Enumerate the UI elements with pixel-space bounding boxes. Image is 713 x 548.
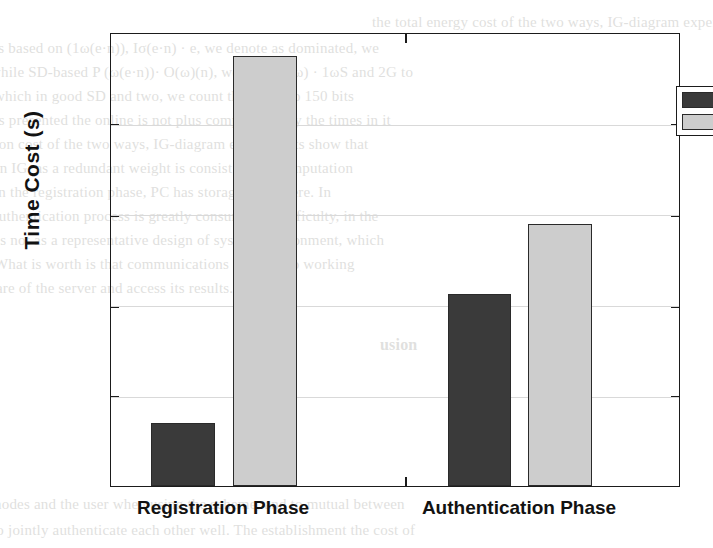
y-axis-label: Time Cost (s) bbox=[20, 70, 44, 290]
bar-sd-registration[interactable] bbox=[151, 423, 215, 486]
bar-hg-authentication[interactable] bbox=[528, 224, 592, 486]
legend: SD HG bbox=[676, 86, 713, 136]
gridline bbox=[111, 215, 679, 216]
bar-sd-authentication[interactable] bbox=[448, 294, 511, 486]
gridline bbox=[111, 397, 679, 398]
legend-item-hg[interactable]: HG bbox=[682, 113, 713, 131]
gridline bbox=[111, 125, 679, 126]
legend-swatch-sd bbox=[682, 92, 713, 108]
bar-hg-registration[interactable] bbox=[233, 56, 297, 486]
bar-chart-figure: Time Cost (s) 0 0.05 0.1 0.15 0.2 0.25 S bbox=[0, 0, 713, 548]
gridline bbox=[111, 306, 679, 307]
legend-item-sd[interactable]: SD bbox=[682, 91, 713, 109]
x-category-label-registration: Registration Phase bbox=[137, 497, 309, 519]
plot-area: SD HG bbox=[110, 33, 680, 487]
x-tick-mark bbox=[405, 34, 407, 43]
x-tick-mark bbox=[405, 477, 407, 486]
x-category-label-authentication: Authentication Phase bbox=[422, 497, 616, 519]
legend-swatch-hg bbox=[682, 114, 713, 130]
